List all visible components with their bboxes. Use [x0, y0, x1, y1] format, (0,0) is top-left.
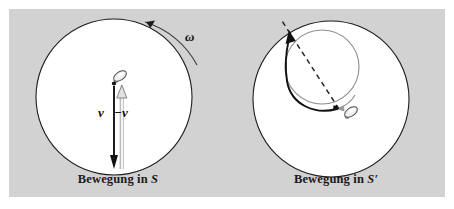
figure-root: v −v ω Bewegung in S: [0, 0, 454, 209]
caption-right-text: Bewegung in: [294, 172, 367, 186]
panel-right-rotating-frame: Bewegung in S′: [227, 9, 445, 197]
rotating-disk-right: [253, 21, 409, 177]
caption-left-symbol: S: [151, 172, 158, 186]
label-velocity-minus-v: −v: [114, 105, 128, 121]
caption-left-text: Bewegung in: [78, 172, 151, 186]
right-panel-graphics: [227, 9, 445, 197]
label-angular-velocity-omega: ω: [185, 29, 194, 45]
figure-panel: v −v ω Bewegung in S: [9, 9, 445, 197]
caption-left: Bewegung in S: [9, 172, 227, 187]
caption-right: Bewegung in S′: [227, 172, 445, 187]
label-velocity-v: v: [98, 105, 104, 121]
panel-left-inertial-frame: v −v ω Bewegung in S: [9, 9, 227, 197]
caption-right-symbol: S′: [367, 172, 378, 186]
